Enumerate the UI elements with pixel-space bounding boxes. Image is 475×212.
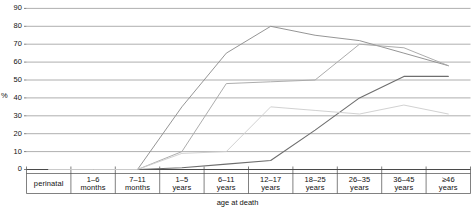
xtick-label-9: 36–45years	[382, 176, 426, 193]
xtick-label-6-line-2: years	[249, 184, 293, 193]
xtick-label-7-line-2: years	[293, 184, 337, 193]
xtick-label-6: 12–17years	[249, 176, 293, 193]
xtick-label-3-line-2: months	[115, 184, 159, 193]
ytick-label-90: 90	[0, 4, 22, 12]
xtick-label-2-line-2: months	[71, 184, 115, 193]
xtick-label-8-line-2: years	[337, 184, 381, 193]
ytick-label-80: 80	[0, 22, 22, 30]
x-axis-label: age at death	[0, 198, 475, 207]
ytick-label-60: 60	[0, 58, 22, 66]
xtick-label-4-line-2: years	[160, 184, 204, 193]
line-chart: 90 80 70 60 50 40 30 20 10 0 % perinatal…	[0, 0, 475, 212]
xtick-label-10-line-2: years	[426, 184, 470, 193]
xtick-label-9-line-2: years	[382, 184, 426, 193]
y-axis-label: %	[1, 91, 8, 100]
xtick-label-8: 26–35years	[337, 176, 381, 193]
xtick-label-3: 7–11months	[115, 176, 159, 193]
gridlines	[27, 8, 471, 151]
xtick-label-10: ≥46years	[426, 176, 470, 193]
xtick-label-5-line-2: years	[204, 184, 248, 193]
ytick-label-50: 50	[0, 76, 22, 84]
xtick-label-5: 6–11years	[204, 176, 248, 193]
xtick-label-1-line-1: perinatal	[27, 180, 71, 189]
ytick-label-20: 20	[0, 130, 22, 138]
ytick-label-30: 30	[0, 112, 22, 120]
ytick-label-10: 10	[0, 148, 22, 156]
axis-lines	[24, 8, 471, 173]
xtick-label-1: perinatal	[27, 180, 71, 189]
xtick-label-4: 1–5years	[160, 176, 204, 193]
series-line-4	[49, 105, 449, 169]
ytick-label-70: 70	[0, 40, 22, 48]
ytick-label-0: 0	[0, 165, 22, 173]
xtick-label-7: 18–25years	[293, 176, 337, 193]
xtick-label-2: 1–6months	[71, 176, 115, 193]
series-line-2	[49, 44, 449, 169]
series-line-3	[49, 76, 449, 169]
